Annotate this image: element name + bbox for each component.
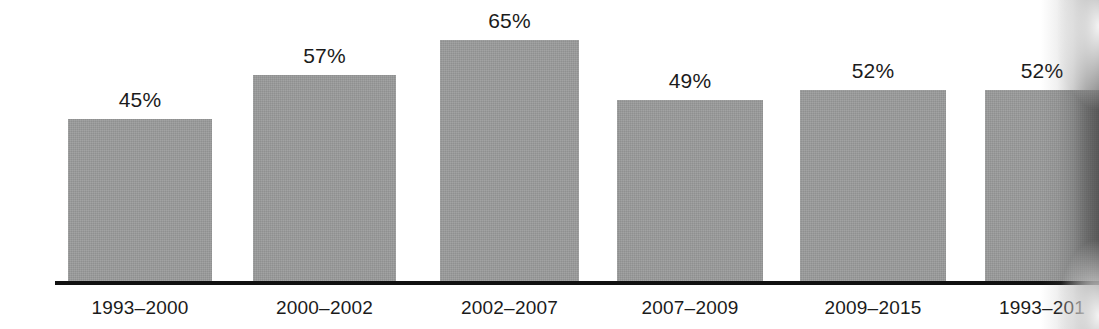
bar <box>440 40 579 283</box>
bar-group: 52%1993–201 <box>985 0 1099 329</box>
bar <box>68 119 212 283</box>
bar-group: 49%2007–2009 <box>617 0 763 329</box>
x-axis-category-label: 2002–2007 <box>440 297 579 319</box>
x-axis-category-label: 2000–2002 <box>253 297 396 319</box>
bar <box>985 90 1099 283</box>
bar <box>617 100 763 283</box>
bar-value-label: 49% <box>617 69 763 93</box>
x-axis-category-label: 1993–201 <box>985 297 1099 319</box>
bar-group: 57%2000–2002 <box>253 0 396 329</box>
bar-group: 52%2009–2015 <box>800 0 946 329</box>
bar-value-label: 57% <box>253 44 396 68</box>
x-axis-category-label: 2007–2009 <box>617 297 763 319</box>
bar <box>800 90 946 283</box>
plot-area: 45%1993–200057%2000–200265%2002–200749%2… <box>0 0 1099 329</box>
bar-value-label: 52% <box>985 59 1099 83</box>
x-axis-line <box>55 281 1099 285</box>
bar-value-label: 52% <box>800 59 946 83</box>
bar-group: 45%1993–2000 <box>68 0 212 329</box>
x-axis-category-label: 2009–2015 <box>800 297 946 319</box>
bar-value-label: 45% <box>68 88 212 112</box>
bar <box>253 75 396 283</box>
bar-group: 65%2002–2007 <box>440 0 579 329</box>
x-axis-category-label: 1993–2000 <box>68 297 212 319</box>
bar-chart: 45%1993–200057%2000–200265%2002–200749%2… <box>0 0 1099 329</box>
bar-value-label: 65% <box>440 9 579 33</box>
